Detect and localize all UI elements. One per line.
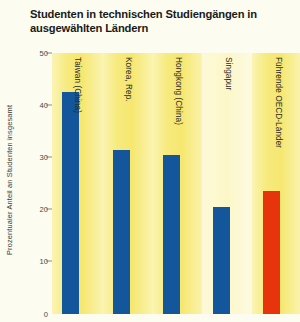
y-tick-label-10: 10 [14, 257, 48, 266]
plot-area: Taiwan (China) Korea, Rep. Hongkong (Chi… [52, 53, 300, 314]
category-label-hongkong-china: Hongkong (China) [174, 57, 183, 125]
bar-korea-rep [113, 150, 130, 314]
y-tick-label-50: 50 [14, 49, 48, 58]
category-label-singapur: Singapur [224, 57, 233, 91]
y-axis-title: Prozentualer Anteil an Studenten insgesa… [5, 105, 14, 255]
category-label-korea-rep: Korea, Rep. [124, 57, 133, 102]
category-label-fuehrende-oecd-laender: Führende OECD-Länder [274, 57, 283, 148]
bar-hongkong-china [163, 155, 180, 314]
y-tick-label-40: 40 [14, 101, 48, 110]
bar-chart: Studenten in technischen Studiengängen i… [0, 0, 300, 322]
bar-taiwan-china [62, 92, 79, 314]
y-tick-label-20: 20 [14, 205, 48, 214]
y-tick-label-0: 0 [14, 310, 48, 319]
chart-title: Studenten in technischen Studiengängen i… [30, 7, 280, 36]
bar-singapur [213, 207, 230, 314]
y-tick-label-30: 30 [14, 153, 48, 162]
bar-fuehrende-oecd-laender [263, 191, 280, 314]
category-label-taiwan-china: Taiwan (China) [73, 57, 82, 113]
y-axis: Prozentualer Anteil an Studenten insgesa… [0, 0, 52, 322]
